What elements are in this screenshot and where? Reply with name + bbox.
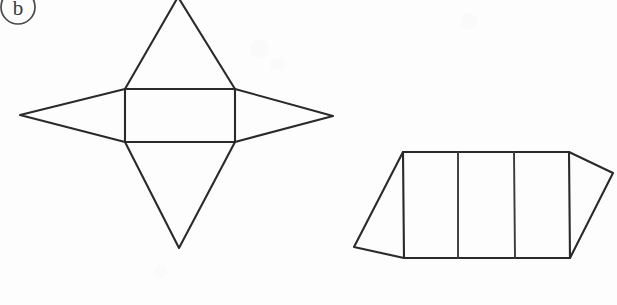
figures-canvas: b (0, 0, 617, 305)
star-net-right-triangle (235, 89, 333, 142)
star-net-center-rectangle (125, 89, 235, 142)
prism-net-figure (354, 152, 613, 258)
star-net-figure (20, 0, 333, 248)
item-label-text: b (13, 0, 24, 20)
prism-net-right-triangle (569, 152, 613, 258)
prism-net-left-triangle (354, 152, 404, 258)
worksheet-page: b (0, 0, 617, 305)
star-net-top-triangle (125, 0, 235, 89)
prism-net-rectangle-band (403, 152, 570, 258)
item-label: b (1, 0, 35, 24)
prism-net-fold-line-2 (514, 152, 515, 258)
star-net-bottom-triangle (125, 142, 235, 248)
star-net-left-triangle (20, 89, 125, 142)
